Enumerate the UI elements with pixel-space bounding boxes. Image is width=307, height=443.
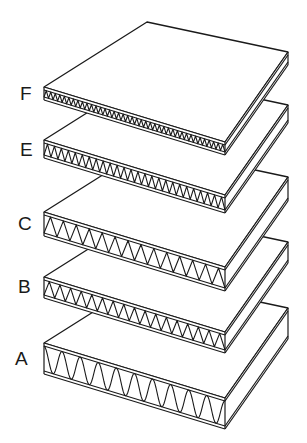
flute-label-b: B [18,277,31,296]
board-stack-illustration [0,0,307,443]
flute-label-c: C [18,214,32,233]
corrugated-board-diagram: F E C B A [0,0,307,443]
flute-label-a: A [15,349,28,368]
flute-label-f: F [20,84,32,103]
flute-label-e: E [20,140,33,159]
